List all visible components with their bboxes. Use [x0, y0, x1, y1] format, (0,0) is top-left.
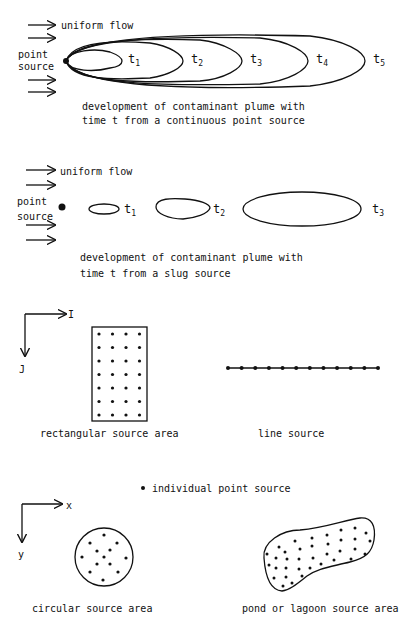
time-label-t3: t3: [372, 202, 384, 218]
grid-point-source: [138, 400, 141, 403]
pond-source-dots: [266, 527, 372, 588]
time-label-t4: t4: [316, 52, 328, 68]
grid-point-source: [124, 346, 127, 349]
slug-t3: [243, 192, 361, 226]
circular-source-dots: [80, 533, 127, 581]
line-point-source: [281, 366, 285, 370]
grid-point-source: [111, 386, 114, 389]
rectangular-source-dots: [97, 332, 141, 416]
slug-t2: [156, 199, 210, 219]
time-label-t3: t3: [250, 52, 262, 68]
point-source-icon: [59, 204, 66, 211]
line-point-source: [226, 366, 230, 370]
point-source-legend-icon: [141, 486, 145, 490]
grid-point-source: [111, 332, 114, 335]
source-label: source: [18, 61, 54, 72]
x-axis-label: x: [66, 500, 72, 511]
line-point-source: [308, 366, 312, 370]
grid-point-source: [111, 373, 114, 376]
grid-point-source: [97, 386, 100, 389]
time-label-t2: t2: [213, 202, 225, 218]
line-point-source: [349, 366, 353, 370]
rect-caption: rectangular source area: [40, 428, 178, 439]
y-axis-label: y: [18, 549, 24, 560]
legend: individual point source: [141, 483, 290, 494]
source-label: source: [17, 211, 53, 222]
grid-point-source: [138, 332, 141, 335]
grid-point-source: [124, 400, 127, 403]
caption: time t from a continuous point source: [82, 115, 305, 126]
grid-point-source: [97, 359, 100, 362]
grid-point-source: [97, 346, 100, 349]
flow-label: uniform flow: [60, 166, 133, 177]
caption: time t from a slug source: [80, 268, 231, 279]
pond-caption: pond or lagoon source area: [242, 603, 399, 614]
grid-point-source: [138, 413, 141, 416]
caption: development of contaminant plume with: [80, 252, 303, 263]
grid-point-source: [124, 359, 127, 362]
flow-label: uniform flow: [61, 20, 134, 31]
line-point-source: [253, 366, 257, 370]
i-axis-label: I: [68, 309, 74, 320]
line-point-source: [362, 366, 366, 370]
rect-line-panel: I J rectangular source area line source: [19, 309, 380, 439]
grid-point-source: [111, 346, 114, 349]
slug-source-panel: uniform flow point source t1 t2 t3 devel…: [17, 166, 384, 279]
grid-point-source: [138, 346, 141, 349]
line-point-source: [376, 366, 380, 370]
grid-point-source: [124, 386, 127, 389]
ij-axes: I J: [19, 309, 74, 375]
grid-point-source: [97, 413, 100, 416]
grid-point-source: [111, 413, 114, 416]
grid-point-source: [124, 332, 127, 335]
grid-point-source: [97, 373, 100, 376]
grid-point-source: [138, 373, 141, 376]
grid-point-source: [97, 400, 100, 403]
grid-point-source: [111, 400, 114, 403]
line-point-source: [240, 366, 244, 370]
grid-point-source: [97, 332, 100, 335]
continuous-source-panel: uniform flow point source t1 t2 t3 t4 t5…: [18, 20, 385, 126]
grid-point-source: [111, 359, 114, 362]
slug-t1: [89, 204, 119, 214]
caption: development of contaminant plume with: [82, 101, 305, 112]
xy-axes: x y: [18, 500, 72, 560]
line-point-source: [267, 366, 271, 370]
time-label-t2: t2: [191, 52, 203, 68]
legend-label: individual point source: [152, 483, 290, 494]
time-label-t5: t5: [373, 52, 385, 68]
circle-pond-panel: x y circular source area: [18, 500, 399, 614]
grid-point-source: [124, 413, 127, 416]
j-axis-label: J: [19, 364, 25, 375]
time-label-t1: t1: [128, 52, 140, 68]
grid-point-source: [138, 359, 141, 362]
circle-caption: circular source area: [32, 603, 152, 614]
line-point-source: [335, 366, 339, 370]
source-label: point: [17, 196, 47, 207]
grid-point-source: [124, 373, 127, 376]
source-label: point: [18, 49, 48, 60]
line-point-source: [321, 366, 325, 370]
pond-source-area: [264, 518, 375, 591]
time-label-t1: t1: [124, 202, 136, 218]
line-point-source: [294, 366, 298, 370]
grid-point-source: [138, 386, 141, 389]
line-caption: line source: [258, 428, 324, 439]
